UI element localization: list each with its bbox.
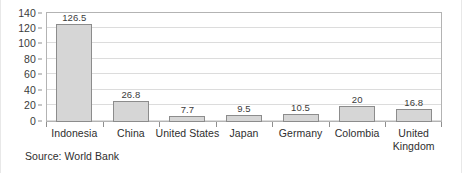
bar-value-label: 10.5	[291, 102, 310, 113]
bar-value-label: 26.8	[121, 89, 140, 100]
y-tick-label: 40	[24, 84, 36, 96]
bar-value-label: 16.8	[404, 97, 423, 108]
y-tick-label: 120	[18, 22, 36, 34]
bar[interactable]	[396, 109, 432, 122]
y-tick-label: 60	[24, 68, 36, 80]
y-tick-label: 100	[18, 37, 36, 49]
y-tick-label: 20	[24, 99, 36, 111]
y-tick-mark	[38, 105, 42, 106]
x-tick-label: United Kingdom	[384, 127, 444, 152]
bar-slot: 126.5	[46, 12, 103, 122]
y-tick-label: 0	[30, 115, 36, 127]
y-tick-mark	[38, 27, 42, 28]
y-tick-mark	[38, 121, 42, 122]
bar[interactable]	[226, 115, 262, 122]
y-axis: 0 20 40 60 80 100 120 140	[1, 12, 42, 122]
y-tick-mark	[38, 58, 42, 59]
bar-chart-figure: 0 20 40 60 80 100 120 140 126.5 26.8 7.7	[0, 0, 462, 173]
y-tick-label: 140	[18, 7, 36, 19]
bar-slot: 26.8	[103, 12, 160, 122]
x-tick-label: Colombia	[322, 127, 392, 140]
y-tick-mark	[38, 89, 42, 90]
y-tick-label: 80	[24, 53, 36, 65]
bar-slot: 9.5	[216, 12, 273, 122]
bar-value-label: 20	[352, 94, 363, 105]
bar[interactable]	[56, 24, 92, 123]
y-tick-mark	[38, 13, 42, 14]
bars-group: 126.5 26.8 7.7 9.5 10.5 20 16.8	[46, 12, 442, 122]
bar[interactable]	[283, 114, 319, 122]
source-note: Source: World Bank	[25, 150, 119, 162]
bar-slot: 10.5	[272, 12, 329, 122]
bar-slot: 16.8	[385, 12, 442, 122]
bar-slot: 7.7	[159, 12, 216, 122]
bar-value-label: 9.5	[237, 103, 251, 114]
y-tick-mark	[38, 43, 42, 44]
bar-slot: 20	[329, 12, 386, 122]
y-tick-mark	[38, 74, 42, 75]
bar[interactable]	[113, 101, 149, 122]
bar[interactable]	[339, 106, 375, 122]
bar-value-label: 126.5	[62, 12, 86, 23]
bar-value-label: 7.7	[181, 104, 195, 115]
